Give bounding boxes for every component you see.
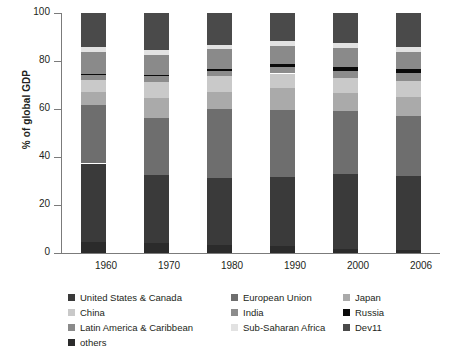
x-axis-tick-label: 2006 (391, 260, 451, 271)
bar-segment[interactable] (270, 177, 295, 246)
legend-item[interactable]: Japan (343, 290, 443, 305)
x-axis-line (55, 253, 440, 254)
bar-segment[interactable] (81, 47, 106, 52)
bar-segment[interactable] (207, 69, 232, 71)
legend-item[interactable]: others (68, 335, 231, 350)
x-axis-tick-label: 1960 (76, 260, 136, 271)
bar-segment[interactable] (333, 71, 358, 78)
bar-segment[interactable] (270, 13, 295, 41)
bar-segment[interactable] (270, 246, 295, 253)
bar-segment[interactable] (81, 105, 106, 164)
bar-segment[interactable] (207, 71, 232, 77)
bar-segment[interactable] (396, 69, 421, 73)
bar-2006[interactable] (396, 13, 421, 253)
bar-segment[interactable] (81, 80, 106, 92)
bar-segment[interactable] (396, 73, 421, 81)
bar-segment[interactable] (144, 55, 169, 75)
bar-segment[interactable] (81, 52, 106, 74)
bar-segment[interactable] (396, 97, 421, 116)
bar-segment[interactable] (270, 46, 295, 64)
bar-segment[interactable] (144, 82, 169, 99)
bar-segment[interactable] (396, 176, 421, 250)
bar-segment[interactable] (333, 93, 358, 111)
bar-segment[interactable] (207, 92, 232, 109)
legend-label: Latin America & Caribbean (80, 322, 193, 333)
bar-segment[interactable] (144, 118, 169, 175)
bar-segment[interactable] (396, 47, 421, 53)
legend-row: Latin America & CaribbeanSub-Saharan Afr… (68, 320, 448, 335)
y-axis-tick-label: 100 (33, 6, 50, 17)
legend-item[interactable]: India (231, 305, 343, 320)
bar-segment[interactable] (144, 243, 169, 253)
bar-segment[interactable] (333, 13, 358, 43)
bar-segment[interactable] (333, 67, 358, 70)
legend-swatch-icon (68, 324, 75, 331)
legend-swatch-icon (68, 294, 75, 301)
legend-label: Sub-Saharan Africa (243, 322, 325, 333)
y-axis-tick: 80 (54, 61, 61, 62)
bar-1960[interactable] (81, 13, 106, 253)
bar-segment[interactable] (81, 92, 106, 105)
bar-segment[interactable] (144, 75, 169, 76)
bar-segment[interactable] (81, 164, 106, 242)
bar-1970[interactable] (144, 13, 169, 253)
bar-1980[interactable] (207, 13, 232, 253)
bar-segment[interactable] (333, 111, 358, 174)
legend-label: India (243, 307, 264, 318)
bar-segment[interactable] (396, 52, 421, 69)
bar-segment[interactable] (144, 98, 169, 118)
bar-segment[interactable] (270, 41, 295, 47)
bar-segment[interactable] (207, 49, 232, 68)
bar-1990[interactable] (270, 13, 295, 253)
bar-segment[interactable] (270, 64, 295, 67)
bar-segment[interactable] (333, 78, 358, 93)
x-axis-tick-label: 1970 (139, 260, 199, 271)
bar-segment[interactable] (81, 13, 106, 47)
legend-item[interactable]: Latin America & Caribbean (68, 320, 231, 335)
bar-segment[interactable] (270, 88, 295, 110)
legend-item[interactable]: Dev11 (343, 320, 443, 335)
legend-item[interactable]: European Union (231, 290, 343, 305)
y-axis-tick: 60 (54, 109, 61, 110)
bar-segment[interactable] (207, 76, 232, 91)
bar-segment[interactable] (207, 245, 232, 253)
bar-segment[interactable] (144, 175, 169, 243)
x-axis-tick-label: 1980 (202, 260, 262, 271)
bar-segment[interactable] (396, 13, 421, 47)
legend-row: United States & CanadaEuropean UnionJapa… (68, 290, 448, 305)
bar-segment[interactable] (270, 110, 295, 177)
bar-segment[interactable] (396, 81, 421, 97)
bar-segment[interactable] (207, 109, 232, 178)
bar-segment[interactable] (333, 43, 358, 49)
chart-legend: United States & CanadaEuropean UnionJapa… (68, 290, 448, 350)
bar-segment[interactable] (333, 48, 358, 67)
legend-label: United States & Canada (80, 292, 182, 303)
bar-segment[interactable] (396, 250, 421, 253)
bar-segment[interactable] (333, 174, 358, 248)
legend-item[interactable]: China (68, 305, 231, 320)
bar-segment[interactable] (144, 13, 169, 50)
bar-segment[interactable] (81, 242, 106, 253)
y-axis-tick-label: 20 (39, 198, 50, 209)
bar-segment[interactable] (144, 76, 169, 82)
bar-segment[interactable] (144, 50, 169, 55)
legend-item[interactable]: Sub-Saharan Africa (231, 320, 343, 335)
y-axis-tick: 40 (54, 157, 61, 158)
bar-segment[interactable] (207, 45, 232, 50)
bar-segment[interactable] (81, 75, 106, 81)
bar-segment[interactable] (207, 178, 232, 245)
legend-item[interactable]: United States & Canada (68, 290, 231, 305)
bar-segment[interactable] (396, 116, 421, 176)
bar-segment[interactable] (81, 74, 106, 75)
y-axis-tick-label: 0 (44, 246, 50, 257)
y-axis-tick: 20 (54, 205, 61, 206)
bar-segment[interactable] (207, 13, 232, 45)
legend-item[interactable]: Russia (343, 305, 443, 320)
bar-segment[interactable] (270, 74, 295, 89)
y-axis-tick: 0 (54, 253, 61, 254)
legend-swatch-icon (343, 324, 350, 331)
bar-segment[interactable] (333, 249, 358, 253)
bar-2000[interactable] (333, 13, 358, 253)
y-axis-tick-label: 60 (39, 102, 50, 113)
bar-segment[interactable] (270, 67, 295, 73)
